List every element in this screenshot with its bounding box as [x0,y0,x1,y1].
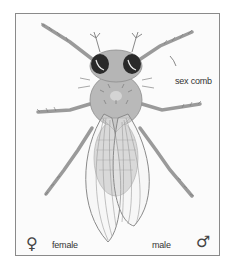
female-label: female [52,240,78,250]
left-hind-leg [46,128,92,194]
female-symbol-icon: ♀ [26,236,38,252]
sex-comb-label: sex comb [175,76,212,86]
left-front-leg [43,25,96,62]
left-middle-leg [38,104,90,112]
left-eye [91,54,109,74]
sex-comb-pointer [170,56,176,66]
right-front-leg [136,32,192,62]
male-symbol-icon: ♂ [196,234,210,250]
fruit-fly-illustration [0,0,231,269]
right-eye [123,54,141,74]
male-label: male [152,240,171,250]
right-middle-leg [142,104,200,110]
